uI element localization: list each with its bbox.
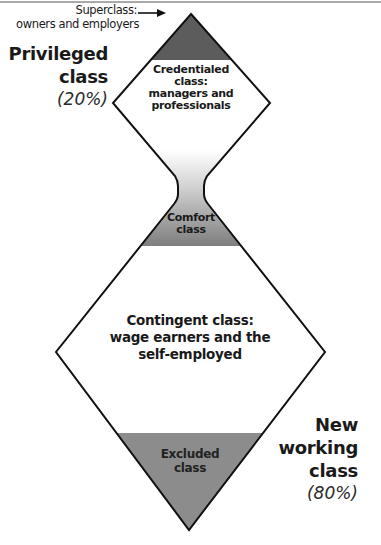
- new-working-line1: New: [270, 413, 358, 436]
- new-working-class-label: New working class (80%): [270, 413, 358, 504]
- privileged-line2: class: [0, 65, 108, 88]
- privileged-line1: Privileged: [0, 42, 108, 65]
- privileged-percent: (20%): [0, 88, 108, 110]
- superclass-title: Superclass:: [0, 3, 137, 17]
- contingent-line3: self-employed: [90, 346, 290, 363]
- contingent-line2: wage earners and the: [90, 329, 290, 346]
- contingent-line1: Contingent class:: [90, 312, 290, 329]
- superclass-label: Superclass: owners and employers: [0, 3, 137, 31]
- arrow-head-icon: [157, 9, 166, 17]
- comfort-line2: class: [151, 224, 231, 236]
- excluded-line2: class: [145, 461, 235, 475]
- excluded-class-label: Excluded class: [145, 447, 235, 475]
- credentialed-class-label: Credentialed class: managers and profess…: [131, 64, 251, 112]
- new-working-line3: class: [270, 459, 358, 482]
- privileged-class-label: Privileged class (20%): [0, 42, 108, 110]
- contingent-class-label: Contingent class: wage earners and the s…: [90, 312, 290, 363]
- credentialed-line4: professionals: [131, 100, 251, 112]
- new-working-line2: working: [270, 436, 358, 459]
- excluded-line1: Excluded: [145, 447, 235, 461]
- comfort-class-label: Comfort class: [151, 212, 231, 236]
- superclass-subtitle: owners and employers: [0, 17, 139, 31]
- new-working-percent: (80%): [270, 482, 358, 504]
